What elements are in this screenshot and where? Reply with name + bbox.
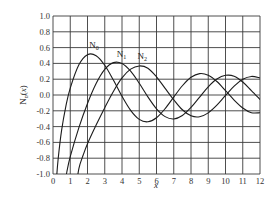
x-tick-label: 8 — [189, 176, 193, 186]
y-tick-label: -0.8 — [37, 153, 50, 163]
curve-label-n2: N2 — [138, 51, 148, 62]
x-tick-label: 5 — [137, 176, 141, 186]
x-tick-label: 2 — [85, 176, 89, 186]
x-tick-label: 3 — [103, 176, 107, 186]
y-tick-label: -0.2 — [37, 106, 50, 116]
x-tick-label: 10 — [221, 176, 230, 186]
x-tick-label: 7 — [172, 176, 176, 186]
x-tick-label: 1 — [68, 176, 72, 186]
y-tick-label: -0.6 — [37, 137, 50, 147]
x-tick-label: 11 — [239, 176, 247, 186]
svg-text:Nn(x): Nn(x) — [18, 85, 29, 105]
curve-labels: N0N1N2 — [89, 40, 147, 63]
bessel-chart: 1.00.80.60.40.20.0-0.2-0.4-0.6-0.8-1.0 0… — [0, 0, 278, 206]
x-tick-label: 12 — [256, 176, 265, 186]
curve-label-n1: N1 — [117, 49, 127, 60]
y-tick-label: 0.0 — [39, 90, 50, 100]
y-tick-label: -0.4 — [37, 122, 51, 132]
y-tick-label: 0.6 — [39, 43, 50, 53]
x-axis-label: x — [153, 180, 158, 190]
y-axis-ticks: 1.00.80.60.40.20.0-0.2-0.4-0.6-0.8-1.0 — [37, 11, 51, 179]
y-tick-label: 1.0 — [39, 11, 50, 21]
curve-n2 — [75, 66, 260, 192]
y-tick-label: -1.0 — [37, 169, 50, 179]
y-axis-label: Nn(x) — [18, 85, 29, 105]
y-tick-label: 0.2 — [39, 74, 50, 84]
x-tick-label: 9 — [206, 176, 210, 186]
y-tick-label: 0.8 — [39, 27, 50, 37]
y-tick-label: 0.4 — [39, 58, 50, 68]
curve-label-n0: N0 — [89, 40, 99, 51]
x-tick-label: 0 — [51, 176, 55, 186]
x-tick-label: 4 — [120, 176, 125, 186]
